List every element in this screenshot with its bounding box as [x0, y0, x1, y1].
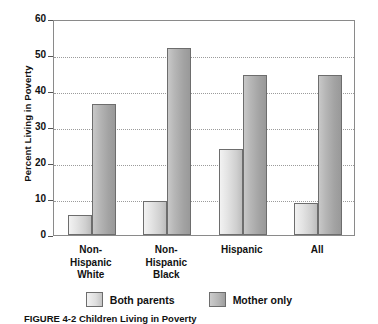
bar-mother-only	[92, 104, 116, 235]
x-axis-category-labels: Non-HispanicWhiteNon-HispanicBlackHispan…	[53, 242, 355, 288]
legend-swatch-mother-only	[209, 292, 226, 307]
bars-layer	[54, 21, 354, 235]
bar-both-parents	[143, 201, 167, 235]
y-tick-label: 20	[14, 157, 46, 168]
y-tick-label: 10	[14, 193, 46, 204]
bar-both-parents	[294, 203, 318, 235]
bar-mother-only	[318, 75, 342, 235]
x-category-label-line: Black	[121, 269, 211, 282]
bar-both-parents	[219, 149, 243, 235]
bar-both-parents	[68, 215, 92, 235]
y-tick-label: 40	[14, 85, 46, 96]
x-category-label-line: Hispanic	[121, 257, 211, 270]
legend-label-mother-only: Mother only	[233, 294, 293, 306]
y-tick-label: 30	[14, 121, 46, 132]
plot-area	[53, 20, 355, 236]
x-category-label-line: All	[272, 244, 362, 257]
bar-mother-only	[243, 75, 267, 235]
y-tick-label: 60	[14, 13, 46, 24]
legend-item-mother-only: Mother only	[209, 292, 293, 307]
legend-item-both-parents: Both parents	[86, 292, 175, 307]
y-tick-mark	[48, 236, 53, 237]
chart-legend: Both parents Mother only	[0, 292, 378, 307]
bar-mother-only	[167, 48, 191, 235]
x-category-label: All	[272, 244, 362, 257]
figure-caption: FIGURE 4-2 Children Living in Poverty	[24, 313, 197, 324]
legend-label-both-parents: Both parents	[110, 294, 175, 306]
y-tick-label: 50	[14, 49, 46, 60]
y-tick-label: 0	[14, 229, 46, 240]
legend-swatch-both-parents	[86, 292, 103, 307]
